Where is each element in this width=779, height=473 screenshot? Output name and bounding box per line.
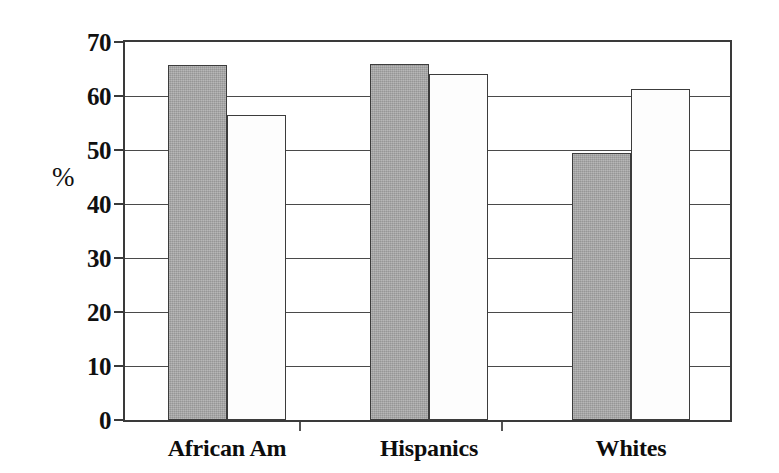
bar-hispanics-series-2 [429,74,488,420]
bar-whites-series-2 [631,89,690,420]
x-tick-mark [299,422,301,431]
bar-african-am-series-1 [168,65,227,420]
x-category-label: African Am [127,436,327,460]
plot-area [123,40,732,422]
y-tick-label: 10 [51,354,111,379]
y-axis-title: % [40,162,86,192]
y-tick-label: 50 [51,138,111,163]
bar-african-am-series-2 [227,115,286,420]
x-category-label: Whites [531,436,731,460]
bar-chart: % 010203040506070 African AmHispanicsWhi… [0,0,779,473]
y-tick-label: 20 [51,300,111,325]
bar-hispanics-series-1 [370,64,429,420]
y-tick-label: 40 [51,192,111,217]
y-tick-label: 60 [51,84,111,109]
x-category-label: Hispanics [329,436,529,460]
y-tick-label: 70 [51,30,111,55]
y-tick-label: 0 [51,408,111,433]
y-tick-label: 30 [51,246,111,271]
plot-inner [125,42,730,420]
bar-whites-series-1 [572,153,631,420]
x-tick-mark [501,422,503,431]
